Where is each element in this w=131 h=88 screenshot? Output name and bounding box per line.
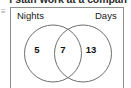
venn-region-value-both: 7 xyxy=(57,45,69,55)
clipped-question-text: f staff work at a compan xyxy=(9,0,131,5)
venn-region-value-nights-only: 5 xyxy=(30,45,44,55)
venn-diagram-question-crop: ≡ f staff work at a compan Nights Days 5… xyxy=(0,0,131,88)
page-margin-tick-icon: ≡ xyxy=(1,9,6,20)
venn-region-value-days-only: 13 xyxy=(82,45,100,55)
